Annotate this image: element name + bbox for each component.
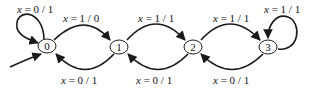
svg-text:1: 1 — [116, 41, 122, 53]
edge-2-3 — [201, 24, 260, 40]
edge-2-1 — [128, 54, 188, 70]
label-1-0: x = 0 / 1 — [60, 74, 97, 86]
label-2-1: x = 0 / 1 — [135, 74, 172, 86]
svg-text:0: 0 — [44, 40, 50, 52]
state-0: 0 — [38, 39, 56, 53]
state-1: 1 — [110, 40, 128, 54]
edge-1-2 — [127, 24, 185, 40]
label-0-1: x = 1 / 0 — [62, 12, 100, 24]
edge-0-1 — [54, 25, 110, 40]
label-3-2: x = 0 / 1 — [212, 74, 249, 86]
start-arrow — [10, 54, 41, 67]
label-3-3: x = 1 / 1 — [263, 3, 300, 15]
label-2-3: x = 1 / 1 — [212, 12, 249, 24]
edge-1-0 — [56, 54, 114, 70]
state-3: 3 — [259, 40, 277, 54]
svg-text:2: 2 — [190, 41, 196, 53]
label-0-0: x = 0 / 1 — [16, 3, 53, 15]
state-2: 2 — [184, 40, 202, 54]
edge-0-0 — [17, 14, 44, 43]
label-1-2: x = 1 / 1 — [137, 12, 174, 24]
svg-text:3: 3 — [265, 41, 271, 53]
edge-3-2 — [201, 54, 263, 70]
state-diagram: 0 1 2 3 x = 0 / 1 x = 1 / 0 x = 0 / 1 x … — [0, 0, 311, 91]
